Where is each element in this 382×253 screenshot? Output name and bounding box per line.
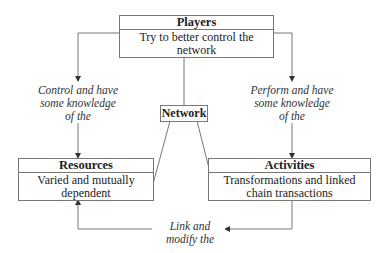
network-title: Network	[162, 106, 207, 120]
players-title: Players	[120, 16, 273, 30]
edge-activities-loop-right	[227, 200, 292, 229]
network-node: Network	[160, 105, 208, 122]
activities-description: Transformations and linked chain transac…	[209, 173, 370, 200]
edge-label-line: modify the	[155, 233, 225, 246]
players-node: Players Try to better control the networ…	[119, 15, 274, 58]
edge-label-perform: Perform and have some knowledge of the	[240, 84, 344, 123]
edge-label-link: Link and modify the	[155, 220, 225, 246]
edge-activities-loop-left	[78, 202, 152, 229]
edge-label-line: of the	[28, 110, 128, 123]
activities-title: Activities	[209, 159, 370, 173]
resources-title: Resources	[19, 159, 153, 173]
edge-label-line: Control and have	[28, 84, 128, 97]
edge-label-line: Perform and have	[240, 84, 344, 97]
edge-label-line: Link and	[155, 220, 225, 233]
edge-players-resources-upper	[78, 33, 119, 79]
edge-network-resources	[153, 121, 170, 184]
players-description: Try to better control the network	[120, 30, 273, 57]
edge-players-activities-upper	[273, 33, 292, 79]
edge-label-line: some knowledge	[28, 97, 128, 110]
resources-node: Resources Varied and mutually dependent	[18, 158, 154, 201]
edge-label-control: Control and have some knowledge of the	[28, 84, 128, 123]
resources-description: Varied and mutually dependent	[19, 173, 153, 200]
edge-label-line: some knowledge	[240, 97, 344, 110]
activities-node: Activities Transformations and linked ch…	[208, 158, 371, 201]
edge-label-line: of the	[240, 110, 344, 123]
